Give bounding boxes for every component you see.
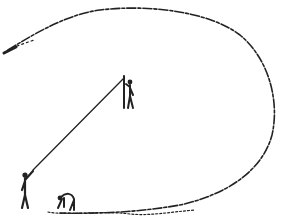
thrown-object — [4, 40, 34, 53]
sight-line — [33, 78, 124, 170]
figure-crouching — [58, 194, 74, 210]
trajectory-loop — [8, 8, 274, 213]
figure-holding-pole — [124, 76, 133, 108]
illustration-canvas — [0, 0, 283, 224]
figure-standing-left — [22, 171, 33, 208]
trajectory-drawing — [0, 0, 283, 224]
